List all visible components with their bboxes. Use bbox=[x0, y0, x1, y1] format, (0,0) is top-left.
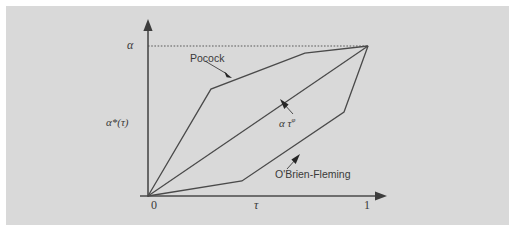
y-axis-alpha-label: α bbox=[127, 39, 133, 51]
y-axis-arrow-icon bbox=[143, 19, 152, 31]
annotation-alpha-tau-phi: α τφ bbox=[279, 117, 295, 129]
annotation-phi-exponent: φ bbox=[291, 116, 295, 124]
annotation-obrien-fleming: O'Brien-Fleming bbox=[275, 169, 351, 180]
x-axis-label: τ bbox=[254, 199, 258, 211]
annotation-pocock: Pocock bbox=[190, 53, 224, 64]
annotation-alpha-tau-base: α τ bbox=[279, 117, 291, 129]
chart-plot-area bbox=[0, 0, 515, 231]
x-axis-arrow-icon bbox=[375, 191, 387, 200]
x-axis-tick-label-origin: 0 bbox=[151, 199, 157, 211]
x-axis-tick-label-end: 1 bbox=[364, 199, 370, 211]
figure-root: α α*(τ) 0 τ 1 Pocock α τφ O'Brien-Flemin… bbox=[0, 0, 515, 231]
y-axis-label: α*(τ) bbox=[106, 117, 129, 128]
pocock-leader-arrow-icon bbox=[224, 72, 232, 78]
